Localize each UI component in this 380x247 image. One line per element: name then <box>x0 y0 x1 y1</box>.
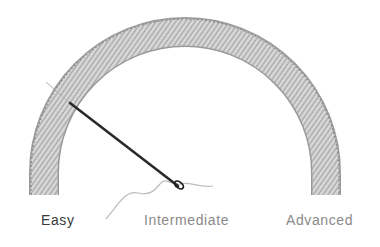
difficulty-gauge <box>0 0 380 247</box>
level-easy-label[interactable]: Easy <box>41 212 75 228</box>
level-intermediate-label[interactable]: Intermediate <box>144 212 229 228</box>
level-advanced-label[interactable]: Advanced <box>286 212 353 228</box>
